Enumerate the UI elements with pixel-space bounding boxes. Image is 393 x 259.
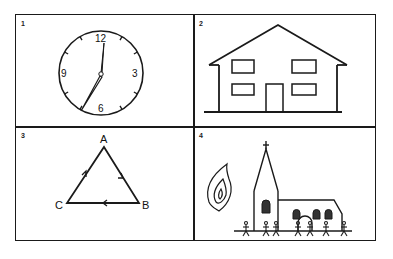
- numeral-3: 3: [132, 68, 138, 79]
- numeral-12: 12: [95, 33, 107, 44]
- four-panel-grid: 1 12 3 6 9 2: [15, 14, 376, 241]
- house-icon: [194, 15, 376, 126]
- triangle-diagram: A B C: [16, 127, 193, 241]
- panel-1: 1 12 3 6 9: [16, 15, 193, 126]
- panel-4: 4: [194, 127, 376, 241]
- panel-3: 3 A B C: [16, 127, 193, 241]
- vertex-b: B: [142, 199, 149, 211]
- church-scene: [194, 127, 376, 241]
- vertex-c: C: [55, 199, 63, 211]
- panel-2: 2: [194, 15, 376, 126]
- vertex-a: A: [100, 133, 108, 145]
- numeral-6: 6: [98, 103, 104, 114]
- flame-icon: [208, 164, 232, 211]
- people-group: [243, 222, 347, 237]
- numeral-9: 9: [61, 68, 67, 79]
- minute-hand: [101, 43, 104, 73]
- clock-icon: 12 3 6 9: [16, 15, 193, 126]
